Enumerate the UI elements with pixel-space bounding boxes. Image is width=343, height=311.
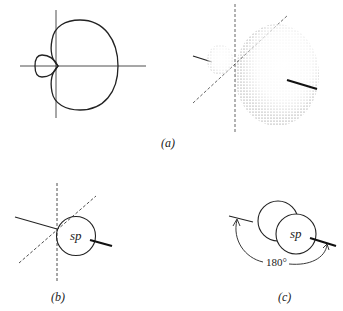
panel-b-label: (b) — [51, 290, 65, 305]
sp-label-c: sp — [290, 226, 302, 242]
major-lobe — [51, 20, 118, 110]
orbital-3d — [193, 4, 319, 132]
angle-label: 180° — [266, 256, 287, 268]
axis-back — [15, 217, 57, 229]
panel-a-label: (a) — [161, 136, 175, 151]
sp-label-b: sp — [70, 228, 82, 244]
axis-left — [229, 216, 253, 222]
panel-c-label: (c) — [278, 290, 291, 305]
polar-plot — [20, 10, 146, 118]
panel-b-diagram — [15, 183, 112, 283]
figure-canvas — [0, 0, 343, 311]
panel-c-diagram — [229, 201, 336, 264]
